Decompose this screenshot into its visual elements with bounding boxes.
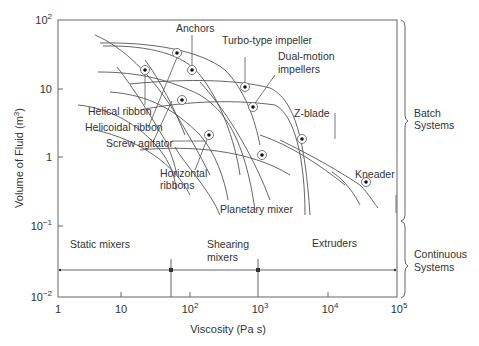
x-tick-1: 1 — [55, 303, 61, 315]
marker-horizontal-ribbons — [205, 131, 214, 140]
label-continuous-1: Continuous — [414, 248, 467, 260]
label-screw: Screw agitator — [106, 137, 174, 149]
label-dual-1: Dual-motion — [278, 50, 335, 62]
group-labels: Batch Systems Continuous Systems — [414, 107, 467, 273]
marker-planetary — [258, 151, 267, 160]
label-extruders: Extruders — [312, 237, 357, 249]
y-tick-0.01: 10−2 — [31, 289, 53, 303]
x-tick-100: 102 — [182, 301, 199, 315]
x-tick-100000: 105 — [391, 301, 408, 315]
y-tick-100: 102 — [35, 12, 52, 26]
y-ticks — [58, 89, 63, 226]
x-tick-10: 10 — [115, 303, 127, 315]
x-tick-1000: 103 — [252, 301, 269, 315]
y-axis-title: Volume of Fluid (m3) — [12, 108, 25, 208]
x-tick-labels: 1 10 102 103 104 105 — [55, 301, 408, 315]
label-continuous-2: Systems — [414, 261, 454, 273]
label-anchors: Anchors — [176, 22, 215, 34]
label-helicoidal: Helicoidal ribbon — [85, 121, 163, 133]
marker-anchors-2 — [188, 66, 197, 75]
label-static-mixers: Static mixers — [70, 238, 130, 250]
label-shearing-2: mixers — [207, 251, 238, 263]
y-tick-1: 1 — [46, 151, 52, 163]
group-braces — [401, 20, 408, 298]
marker-helical-ribbon — [141, 66, 150, 75]
x-axis-title: Viscosity (Pa s) — [190, 323, 266, 335]
equipment-labels: Anchors Turbo-type impeller Dual-motion … — [85, 22, 395, 215]
x-ticks — [121, 292, 328, 297]
y-tick-0.1: 10−1 — [31, 218, 53, 232]
marker-z-blade — [298, 135, 307, 144]
label-dual-2: impellers — [278, 63, 320, 75]
chart: 102 10 1 10−1 10−2 1 10 102 103 104 105 … — [0, 0, 479, 346]
continuous-section: Static mixers Shearing mixers Extruders — [59, 237, 396, 297]
label-shearing-1: Shearing — [207, 238, 249, 250]
label-batch-1: Batch — [414, 107, 441, 119]
label-helical: Helical ribbon — [88, 105, 152, 117]
y-tick-10: 10 — [40, 83, 52, 95]
marker-helicoidal-ribbon — [178, 96, 187, 105]
label-batch-2: Systems — [414, 119, 454, 131]
label-horiz-2: ribbons — [160, 179, 194, 191]
marker-dual-motion — [249, 103, 258, 112]
x-tick-10000: 104 — [322, 301, 339, 315]
label-turbo: Turbo-type impeller — [222, 34, 313, 46]
label-kneader: Kneader — [355, 168, 395, 180]
label-horiz-1: Horizontal — [160, 167, 207, 179]
label-zblade: Z-blade — [294, 107, 330, 119]
y-tick-labels: 102 10 1 10−1 10−2 — [31, 12, 53, 303]
marker-anchors-1 — [173, 49, 182, 58]
marker-turbo-impeller — [241, 83, 250, 92]
label-planetary: Planetary mixer — [220, 203, 293, 215]
